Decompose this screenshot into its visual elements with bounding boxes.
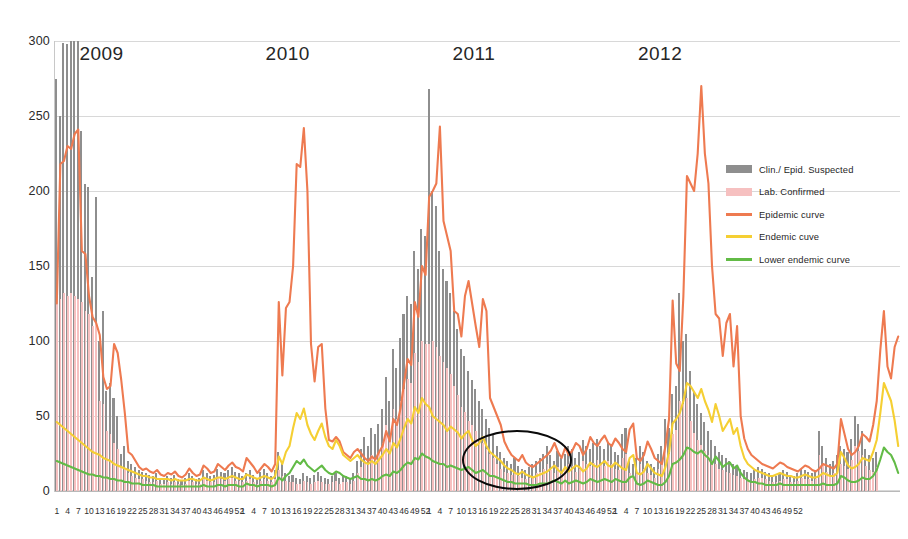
curve-epidemic-curve bbox=[57, 86, 898, 478]
legend-swatch-icon bbox=[726, 188, 752, 196]
x-axis-tick-label: 43 bbox=[761, 506, 771, 516]
x-axis-tick-label: 49 bbox=[596, 506, 606, 516]
x-axis-tick-label: 7 bbox=[76, 506, 81, 516]
x-axis-tick-label: 22 bbox=[686, 506, 696, 516]
x-axis-tick-label: 13 bbox=[654, 506, 664, 516]
x-axis-tick-label: 1 bbox=[241, 506, 246, 516]
x-axis-tick-label: 10 bbox=[457, 506, 467, 516]
x-axis-tick-label: 19 bbox=[116, 506, 126, 516]
x-axis-tick-label: 4 bbox=[624, 506, 629, 516]
y-axis-tick-label: 0 bbox=[4, 484, 50, 498]
legend-label: Endemic cuve bbox=[759, 231, 819, 242]
x-axis-tick-label: 46 bbox=[772, 506, 782, 516]
x-axis-tick-label: 43 bbox=[202, 506, 212, 516]
x-axis-tick-label: 7 bbox=[262, 506, 267, 516]
y-axis-tick-label: 300 bbox=[4, 34, 50, 48]
x-axis-tick-label: 1 bbox=[613, 506, 618, 516]
x-axis-tick-label: 22 bbox=[500, 506, 510, 516]
legend-swatch-icon bbox=[726, 165, 752, 173]
legend-swatch-icon bbox=[726, 235, 752, 238]
y-axis-tick-label: 200 bbox=[4, 184, 50, 198]
x-axis-tick-label: 40 bbox=[378, 506, 388, 516]
y-axis-tick-label: 250 bbox=[4, 109, 50, 123]
x-axis-tick-label: 4 bbox=[65, 506, 70, 516]
x-axis-tick-label: 19 bbox=[489, 506, 499, 516]
x-axis-tick-label: 34 bbox=[729, 506, 739, 516]
x-axis-tick-label: 4 bbox=[251, 506, 256, 516]
x-axis-tick-label: 25 bbox=[138, 506, 148, 516]
x-axis-tick-label: 28 bbox=[149, 506, 159, 516]
y-axis-labels: 050100150200250300 bbox=[0, 41, 50, 491]
x-axis-tick-label: 31 bbox=[346, 506, 356, 516]
y-axis-tick-label: 150 bbox=[4, 259, 50, 273]
x-axis-ticks: 1471013161922252831343740434649521471013… bbox=[55, 498, 900, 516]
x-axis-tick-label: 10 bbox=[270, 506, 280, 516]
x-axis-tick-label: 19 bbox=[303, 506, 313, 516]
x-axis-tick-label: 1 bbox=[427, 506, 432, 516]
x-axis-tick-label: 13 bbox=[467, 506, 477, 516]
x-axis-tick-label: 25 bbox=[510, 506, 520, 516]
y-axis-tick-label: 100 bbox=[4, 334, 50, 348]
legend-item: Epidemic curve bbox=[726, 203, 898, 226]
x-axis-tick-label: 19 bbox=[675, 506, 685, 516]
x-axis-tick-label: 37 bbox=[553, 506, 563, 516]
legend-label: Lower endemic curve bbox=[759, 254, 850, 265]
x-axis-tick-label: 40 bbox=[192, 506, 202, 516]
x-axis-tick-label: 37 bbox=[739, 506, 749, 516]
x-axis-tick-label: 31 bbox=[718, 506, 728, 516]
x-axis-tick-label: 46 bbox=[213, 506, 223, 516]
legend-swatch-icon bbox=[726, 213, 752, 216]
year-label: 2010 bbox=[266, 43, 310, 65]
x-axis-tick-label: 46 bbox=[399, 506, 409, 516]
epidemic-curve-chart: 050100150200250300 2009201020112012 1471… bbox=[0, 0, 908, 539]
x-axis-tick-label: 34 bbox=[356, 506, 366, 516]
legend-label: Clin./ Epid. Suspected bbox=[759, 164, 853, 175]
y-axis-tick-label: 50 bbox=[4, 409, 50, 423]
x-axis-tick-label: 7 bbox=[448, 506, 453, 516]
x-axis-tick-label: 43 bbox=[389, 506, 399, 516]
x-axis-tick-label: 40 bbox=[564, 506, 574, 516]
legend-swatch-icon bbox=[726, 258, 752, 261]
x-axis-tick-label: 46 bbox=[586, 506, 596, 516]
x-axis-tick-label: 22 bbox=[313, 506, 323, 516]
x-axis-line bbox=[55, 491, 900, 492]
x-axis-tick-label: 37 bbox=[367, 506, 377, 516]
x-axis-tick-label: 28 bbox=[707, 506, 717, 516]
year-label: 2011 bbox=[452, 43, 495, 65]
legend-label: Epidemic curve bbox=[759, 209, 825, 220]
x-axis-tick-label: 31 bbox=[159, 506, 169, 516]
x-axis-tick-label: 16 bbox=[292, 506, 302, 516]
x-axis-tick-label: 37 bbox=[181, 506, 191, 516]
x-axis-tick-label: 22 bbox=[127, 506, 137, 516]
x-axis-tick-label: 10 bbox=[643, 506, 653, 516]
x-axis-tick-label: 4 bbox=[438, 506, 443, 516]
x-axis-tick-label: 25 bbox=[324, 506, 334, 516]
highlight-ellipse-annotation bbox=[462, 430, 572, 490]
x-axis-tick-label: 25 bbox=[697, 506, 707, 516]
x-axis-tick-label: 49 bbox=[224, 506, 234, 516]
x-axis-tick-label: 52 bbox=[793, 506, 803, 516]
x-axis-tick-label: 13 bbox=[95, 506, 105, 516]
x-axis-tick-label: 1 bbox=[54, 506, 59, 516]
x-axis-tick-label: 43 bbox=[575, 506, 585, 516]
x-axis-tick-label: 16 bbox=[664, 506, 674, 516]
x-axis-tick-label: 7 bbox=[634, 506, 639, 516]
y-axis-line bbox=[54, 41, 55, 492]
legend-item: Lower endemic curve bbox=[726, 248, 898, 271]
legend-item: Lab. Confirmed bbox=[726, 181, 898, 204]
x-axis-tick-label: 31 bbox=[532, 506, 542, 516]
x-axis-tick-label: 34 bbox=[543, 506, 553, 516]
x-axis-tick-label: 40 bbox=[750, 506, 760, 516]
year-labels: 2009201020112012 bbox=[55, 41, 900, 71]
x-axis-tick-label: 16 bbox=[106, 506, 116, 516]
legend-item: Endemic cuve bbox=[726, 226, 898, 249]
year-label: 2012 bbox=[638, 43, 682, 65]
x-axis-tick-label: 13 bbox=[281, 506, 291, 516]
x-axis-tick-label: 49 bbox=[782, 506, 792, 516]
chart-legend: Clin./ Epid. SuspectedLab. ConfirmedEpid… bbox=[726, 158, 898, 271]
x-axis-tick-label: 34 bbox=[170, 506, 180, 516]
x-axis-tick-label: 28 bbox=[521, 506, 531, 516]
x-axis-tick-label: 49 bbox=[410, 506, 420, 516]
year-label: 2009 bbox=[79, 43, 123, 65]
legend-item: Clin./ Epid. Suspected bbox=[726, 158, 898, 181]
